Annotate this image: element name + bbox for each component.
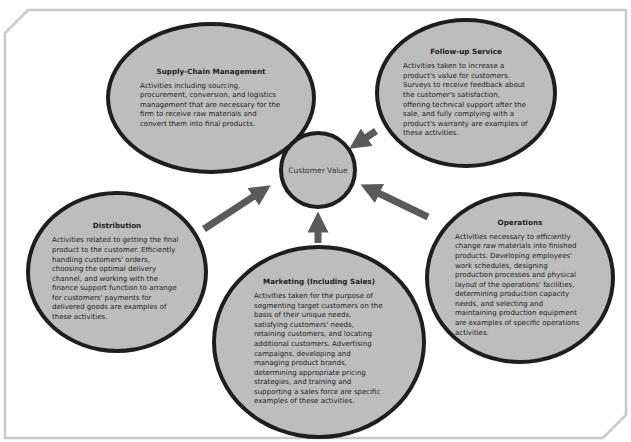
node-title: Distribution xyxy=(93,221,141,230)
node-operations: Operations Activities necessary to effic… xyxy=(425,192,615,364)
node-title: Marketing (Including Sales) xyxy=(263,277,375,286)
node-marketing: Marketing (Including Sales) Activities t… xyxy=(212,245,426,439)
diagram-canvas: Supply-Chain Management Activities inclu… xyxy=(0,0,631,442)
node-title: Supply-Chain Management xyxy=(157,67,266,76)
node-description: Activities taken for the purpose of segm… xyxy=(254,292,384,407)
node-customer-value: Customer Value xyxy=(279,131,357,209)
node-description: Activities including sourcing, procureme… xyxy=(140,82,282,130)
node-description: Activities taken to increase a product's… xyxy=(403,62,529,139)
node-description: Activities related to getting the final … xyxy=(52,236,182,322)
node-distribution: Distribution Activities related to getti… xyxy=(26,191,208,353)
center-label: Customer Value xyxy=(288,166,347,175)
node-title: Operations xyxy=(498,218,543,227)
node-description: Activities necessary to efficiently chan… xyxy=(455,233,585,339)
node-title: Follow-up Service xyxy=(430,47,502,56)
node-follow-up-service: Follow-up Service Activities taken to in… xyxy=(375,18,557,168)
